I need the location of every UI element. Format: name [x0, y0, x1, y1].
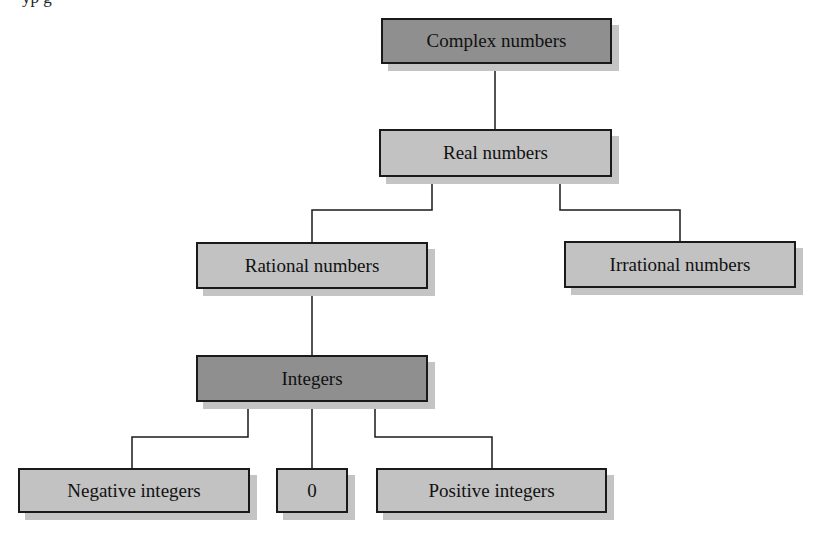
node-irrational-numbers: Irrational numbers [564, 241, 796, 288]
node-label: Integers [281, 368, 342, 390]
node-label: Irrational numbers [610, 254, 751, 276]
node-positive-integers: Positive integers [376, 468, 607, 513]
node-label: Positive integers [428, 480, 554, 502]
edge-integers-negative [132, 402, 248, 468]
edge-integers-positive [375, 402, 492, 468]
node-real-numbers: Real numbers [379, 129, 612, 177]
node-label: Real numbers [443, 142, 548, 164]
node-rational-numbers: Rational numbers [196, 242, 428, 289]
node-label: Negative integers [67, 480, 200, 502]
edge-real-irrational [560, 177, 680, 241]
node-negative-integers: Negative integers [18, 468, 250, 513]
node-zero: 0 [276, 468, 348, 513]
node-complex-numbers: Complex numbers [381, 18, 612, 64]
node-label: Rational numbers [245, 255, 380, 277]
node-integers: Integers [196, 355, 428, 402]
node-label: 0 [307, 480, 317, 502]
edge-real-rational [312, 177, 432, 242]
node-label: Complex numbers [427, 30, 567, 52]
